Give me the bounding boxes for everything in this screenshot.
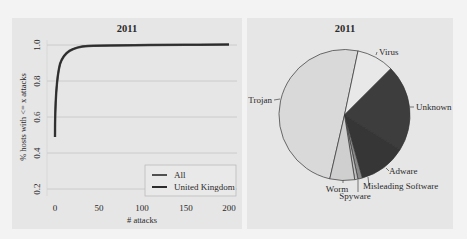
svg-text:200: 200 (222, 203, 236, 213)
label-virus: Virus (379, 47, 399, 57)
series-united-kingdom-line (55, 45, 229, 138)
pie-chart-panel: 2011 Trojan Virus Unknown Adware Mislead… (247, 18, 453, 229)
cdf-chart-title: 2011 (117, 23, 137, 34)
label-misleading-software: Misleading Software (363, 181, 438, 191)
label-worm: Worm (326, 184, 348, 194)
pie-chart: 2011 Trojan Virus Unknown Adware Mislead… (247, 18, 453, 229)
pie-slices (279, 49, 410, 180)
label-trojan: Trojan (248, 95, 272, 105)
y-axis-label: % hosts with <= x attacks (18, 73, 28, 161)
svg-text:100: 100 (135, 203, 149, 213)
label-adware: Adware (389, 166, 418, 176)
x-axis-label: # attacks (127, 215, 157, 225)
svg-text:1.0: 1.0 (32, 39, 42, 51)
series-all-line (55, 45, 229, 138)
legend-label-united-kingdom: United Kingdom (174, 182, 235, 192)
svg-text:150: 150 (179, 203, 193, 213)
svg-text:0.4: 0.4 (32, 147, 42, 159)
legend: All United Kingdom (145, 165, 236, 196)
label-unknown: Unknown (416, 102, 452, 112)
legend-label-all: All (174, 170, 186, 180)
svg-text:0.2: 0.2 (32, 183, 42, 194)
y-tick-labels: 1.0 0.8 0.6 0.4 0.2 (32, 39, 42, 195)
svg-text:50: 50 (95, 203, 105, 213)
x-tick-labels: 0 50 100 150 200 (53, 203, 237, 213)
svg-text:0.8: 0.8 (32, 75, 42, 87)
cdf-chart: 2011 1.0 0.8 0.6 0.4 0.2 % hosts with <=… (12, 18, 242, 229)
svg-text:0.6: 0.6 (32, 111, 42, 123)
cdf-chart-panel: 2011 1.0 0.8 0.6 0.4 0.2 % hosts with <=… (12, 18, 242, 229)
pie-chart-title: 2011 (335, 23, 355, 34)
svg-text:0: 0 (53, 203, 58, 213)
